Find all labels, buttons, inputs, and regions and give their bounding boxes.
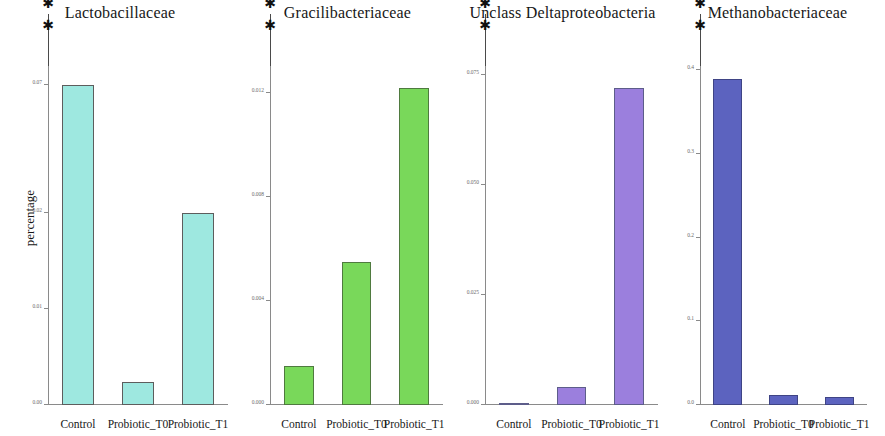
y-tick-label: 0.012 bbox=[252, 87, 264, 93]
bar bbox=[614, 88, 644, 405]
y-tick-label: 0.00 bbox=[32, 399, 42, 405]
y-axis-line bbox=[48, 62, 49, 405]
y-tick-label: 0.0 bbox=[687, 399, 694, 405]
y-tick bbox=[44, 308, 49, 309]
chart-panel-2: Gracilibacteriaceae0.0120.0080.0040.000✱… bbox=[240, 0, 455, 436]
plot-area: 0.0750.0500.0250.000✱✱ bbox=[485, 62, 658, 405]
bar bbox=[713, 79, 742, 405]
x-category-label: Probiotic_T0 bbox=[753, 418, 814, 430]
y-tick-label: 0.1 bbox=[687, 315, 694, 321]
y-tick-label: 0.000 bbox=[252, 399, 264, 405]
x-category-label: Probiotic_T1 bbox=[384, 418, 445, 430]
x-category-label: Probiotic_T0 bbox=[541, 418, 602, 430]
y-axis-line bbox=[700, 62, 701, 405]
bar bbox=[557, 387, 587, 405]
bar bbox=[284, 366, 314, 405]
y-tick bbox=[44, 404, 49, 405]
y-axis-line bbox=[270, 62, 271, 405]
chart-title: Gracilibacteriaceae bbox=[240, 4, 455, 22]
plot-area: 0.0120.0080.0040.000✱✱ bbox=[270, 62, 443, 405]
x-category-label: Control bbox=[60, 418, 95, 430]
x-category-label: Probiotic_T1 bbox=[168, 418, 229, 430]
y-tick-label: 0.4 bbox=[687, 64, 694, 70]
chart-panel-1: Lactobacillaceaepercentage0.070.020.010.… bbox=[0, 0, 240, 436]
y-tick bbox=[266, 196, 271, 197]
y-tick bbox=[696, 404, 701, 405]
bar bbox=[399, 88, 429, 405]
y-tick-label: 0.02 bbox=[32, 207, 42, 213]
y-tick bbox=[481, 404, 486, 405]
bar bbox=[342, 262, 372, 405]
y-tick bbox=[696, 69, 701, 70]
x-category-label: Probiotic_T0 bbox=[326, 418, 387, 430]
bar bbox=[499, 403, 529, 405]
y-tick-label: 0.025 bbox=[467, 289, 479, 295]
x-category-label: Control bbox=[281, 418, 316, 430]
y-tick-label: 0.075 bbox=[467, 69, 479, 75]
chart-panel-3: Unclass Deltaproteobacteria0.0750.0500.0… bbox=[455, 0, 670, 436]
bar bbox=[182, 213, 213, 405]
y-tick bbox=[696, 320, 701, 321]
y-tick-label: 0.07 bbox=[32, 79, 42, 85]
plot-area: 0.40.30.20.10.0✱✱ bbox=[700, 62, 867, 405]
y-tick bbox=[266, 404, 271, 405]
y-tick bbox=[266, 92, 271, 93]
y-tick-label: 0.050 bbox=[467, 179, 479, 185]
x-category-label: Probiotic_T1 bbox=[599, 418, 660, 430]
y-tick bbox=[44, 84, 49, 85]
y-tick bbox=[481, 294, 486, 295]
y-tick bbox=[481, 184, 486, 185]
x-category-label: Control bbox=[496, 418, 531, 430]
y-tick-label: 0.004 bbox=[252, 295, 264, 301]
chart-panel-4: Methanobacteriaceae0.40.30.20.10.0✱✱Cont… bbox=[670, 0, 885, 436]
y-tick-label: 0.01 bbox=[32, 303, 42, 309]
y-tick bbox=[481, 74, 486, 75]
y-tick bbox=[266, 300, 271, 301]
y-tick bbox=[696, 153, 701, 154]
x-category-label: Probiotic_T1 bbox=[809, 418, 870, 430]
x-category-label: Control bbox=[710, 418, 745, 430]
bar bbox=[769, 395, 798, 405]
y-tick bbox=[696, 237, 701, 238]
plot-area: 0.070.020.010.00✱✱ bbox=[48, 62, 228, 405]
chart-title: Methanobacteriaceae bbox=[670, 4, 885, 22]
bar bbox=[825, 397, 854, 405]
y-tick bbox=[44, 212, 49, 213]
chart-title: Lactobacillaceae bbox=[0, 4, 240, 22]
bar bbox=[62, 85, 93, 405]
y-tick-label: 0.000 bbox=[467, 399, 479, 405]
x-category-label: Probiotic_T0 bbox=[108, 418, 169, 430]
chart-title: Unclass Deltaproteobacteria bbox=[455, 4, 670, 22]
y-axis-label: percentage bbox=[22, 190, 38, 246]
y-tick-label: 0.2 bbox=[687, 232, 694, 238]
y-tick-label: 0.3 bbox=[687, 148, 694, 154]
multi-panel-bar-figure: Lactobacillaceaepercentage0.070.020.010.… bbox=[0, 0, 885, 436]
y-axis-line bbox=[485, 62, 486, 405]
y-tick-label: 0.008 bbox=[252, 191, 264, 197]
bar bbox=[122, 382, 153, 405]
